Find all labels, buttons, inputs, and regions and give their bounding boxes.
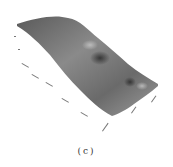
terrain-surface [17,16,158,116]
surface-plot [0,0,173,167]
surface-plot-figure: (c) [0,0,173,167]
figure-caption: (c) [0,146,173,156]
